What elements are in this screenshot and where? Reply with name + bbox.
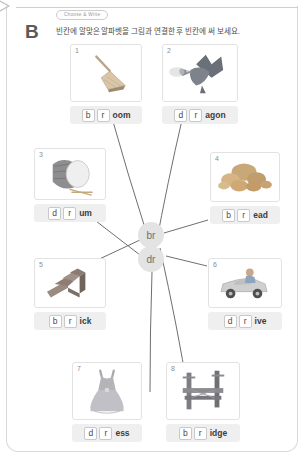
broom-icon [71, 45, 141, 101]
card-1-slot-1[interactable]: b [82, 109, 95, 122]
card-1-image: 1 [70, 44, 142, 102]
dragon-icon [163, 45, 237, 101]
card-7-slot-1[interactable]: d [84, 427, 97, 440]
card-5-slot-2[interactable]: r [64, 315, 77, 328]
card-3-slot-2[interactable]: r [63, 207, 76, 220]
drum-icon [35, 149, 105, 199]
card-3-slot-1[interactable]: d [48, 207, 61, 220]
card-3-answer[interactable]: d r um [34, 204, 106, 222]
worksheet-page: B Choose & Write 빈칸에 알맞은 알파벳을 그림과 연결한 후 … [0, 0, 302, 461]
card-4-answer[interactable]: b r ead [210, 206, 280, 224]
card-8[interactable]: 8 b r idge [166, 362, 240, 442]
activity-type-tag: Choose & Write [56, 10, 108, 20]
card-1[interactable]: 1 b r oom [70, 44, 142, 124]
card-4-number: 4 [215, 155, 219, 162]
card-7-image: 7 [72, 362, 142, 420]
card-2-image: 2 [162, 44, 238, 102]
card-7-rest: ess [115, 429, 129, 438]
card-4-slot-2[interactable]: r [237, 209, 250, 222]
card-4-slot-1[interactable]: b [222, 209, 235, 222]
card-4-rest: ead [253, 211, 268, 220]
card-5-number: 5 [39, 261, 43, 268]
card-4-image: 4 [210, 152, 280, 202]
card-7[interactable]: 7 d r ess [72, 362, 142, 442]
card-7-number: 7 [77, 365, 81, 372]
card-6-image: 6 [208, 258, 282, 308]
card-4[interactable]: 4 b r ead [210, 152, 280, 224]
card-5-answer[interactable]: b r ick [34, 312, 106, 330]
card-8-rest: idge [210, 429, 227, 438]
card-8-slot-2[interactable]: r [194, 427, 207, 440]
card-6-rest: ive [255, 317, 267, 326]
card-6-slot-2[interactable]: r [239, 315, 252, 328]
card-2[interactable]: 2 d r agon [162, 44, 238, 124]
center-bubble-br[interactable]: br [138, 222, 164, 248]
card-2-number: 2 [167, 47, 171, 54]
card-3-image: 3 [34, 148, 106, 200]
corner-arrow-icon [0, 0, 16, 16]
card-2-rest: agon [205, 111, 225, 120]
card-6-slot-1[interactable]: d [224, 315, 237, 328]
instruction-text: 빈칸에 알맞은 알파벳을 그림과 연결한 후 빈칸에 써 보세요. [56, 25, 240, 36]
card-6-answer[interactable]: d r ive [208, 312, 282, 330]
card-1-slot-2[interactable]: r [97, 109, 110, 122]
card-5[interactable]: 5 b r ick [34, 258, 106, 330]
brick-icon [35, 259, 105, 307]
card-8-number: 8 [171, 365, 175, 372]
card-5-image: 5 [34, 258, 106, 308]
card-3[interactable]: 3 d r um [34, 148, 106, 222]
card-5-rest: ick [80, 317, 92, 326]
card-3-number: 3 [39, 151, 43, 158]
card-7-answer[interactable]: d r ess [72, 424, 142, 442]
drive-icon [209, 259, 281, 307]
card-8-answer[interactable]: b r idge [166, 424, 240, 442]
card-1-rest: oom [113, 111, 131, 120]
card-5-slot-1[interactable]: b [49, 315, 62, 328]
card-8-image: 8 [166, 362, 240, 420]
bread-icon [211, 153, 279, 201]
card-7-slot-2[interactable]: r [99, 427, 112, 440]
card-2-answer[interactable]: d r agon [162, 106, 238, 124]
card-8-slot-1[interactable]: b [179, 427, 192, 440]
top-rule [16, 7, 298, 8]
bridge-icon [167, 363, 239, 419]
card-6-number: 6 [213, 261, 217, 268]
card-2-slot-1[interactable]: d [174, 109, 187, 122]
card-1-number: 1 [75, 47, 79, 54]
card-2-slot-2[interactable]: r [189, 109, 202, 122]
card-1-answer[interactable]: b r oom [70, 106, 142, 124]
card-6[interactable]: 6 d r ive [208, 258, 282, 330]
section-letter: B [25, 22, 39, 41]
card-3-rest: um [79, 209, 92, 218]
dress-icon [73, 363, 141, 419]
center-bubble-dr[interactable]: dr [138, 246, 164, 272]
